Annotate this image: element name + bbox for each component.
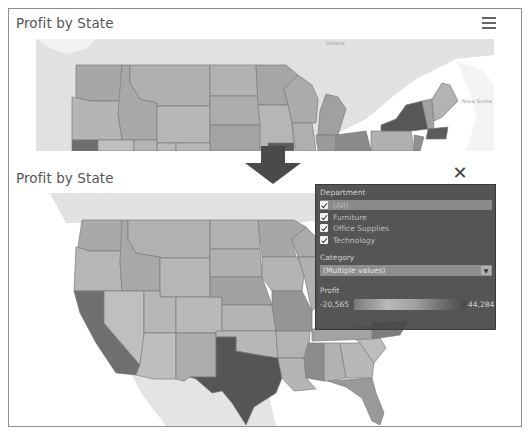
department-option-all[interactable]: (All): [320, 200, 492, 210]
top-view-title: Profit by State: [16, 15, 114, 31]
profit-color-legend: [354, 299, 466, 310]
down-arrow-icon: [245, 146, 301, 184]
option-label: Technology: [333, 236, 375, 245]
option-label: Furniture: [333, 213, 367, 222]
checkbox-checked-icon[interactable]: [320, 236, 328, 244]
checkbox-checked-icon[interactable]: [320, 213, 328, 221]
profit-label: Profit: [320, 286, 340, 295]
department-label: Department: [320, 188, 365, 197]
category-dropdown[interactable]: (Multiple values) ▼: [320, 265, 492, 276]
checkbox-checked-icon[interactable]: [320, 224, 328, 232]
top-profit-map[interactable]: Ontario Nova Scotia: [36, 39, 494, 151]
dropdown-arrow-icon[interactable]: ▼: [481, 266, 491, 275]
profit-max-value: 44,284: [468, 300, 494, 309]
option-label: Office Supplies: [333, 224, 389, 233]
filter-panel: Department (All) Furniture Office Suppli…: [315, 184, 496, 330]
category-label: Category: [320, 253, 354, 262]
profit-min-value: -20,565: [320, 300, 349, 309]
category-value: (Multiple values): [320, 266, 481, 275]
close-icon[interactable]: ✕: [452, 165, 468, 181]
department-option-office-supplies[interactable]: Office Supplies: [320, 223, 492, 233]
map-label-nova-scotia: Nova Scotia: [462, 98, 492, 104]
option-label: (All): [333, 201, 348, 210]
department-option-technology[interactable]: Technology: [320, 235, 492, 245]
department-option-furniture[interactable]: Furniture: [320, 212, 492, 222]
map-label-ontario: Ontario: [326, 40, 345, 46]
bottom-view-title: Profit by State: [16, 170, 114, 186]
hamburger-menu-icon[interactable]: [482, 17, 496, 29]
checkbox-checked-icon[interactable]: [320, 201, 328, 209]
